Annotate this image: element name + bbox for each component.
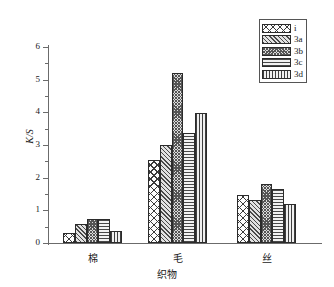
- bar-i-棉: [63, 233, 75, 243]
- y-tick-label: 3: [24, 140, 40, 149]
- bar-3d-棉: [110, 231, 122, 243]
- y-tick-label-text: 6: [26, 42, 40, 51]
- bar-3c-棉: [98, 219, 110, 243]
- bar-3d-毛: [195, 113, 207, 243]
- legend-label-3c: 3c: [294, 58, 303, 67]
- bar-3a-毛: [160, 145, 172, 243]
- bar-3b-毛: [172, 73, 184, 243]
- x-category-label-2: 毛: [148, 250, 208, 265]
- x-category-label-3: 丝: [237, 250, 297, 265]
- bar-i-毛: [148, 160, 160, 243]
- legend-item-3a[interactable]: 3a: [262, 34, 303, 45]
- bar-group: [63, 47, 122, 243]
- bar-3a-丝: [249, 200, 261, 243]
- legend-label-3d: 3d: [294, 70, 303, 79]
- x-category-label-1: 棉: [63, 250, 123, 265]
- legend-swatch-i: [262, 24, 291, 33]
- y-tick-label: 2: [24, 173, 40, 182]
- y-tick-label-text: 2: [26, 173, 40, 182]
- bar-3c-毛: [183, 133, 195, 243]
- bar-3d-丝: [284, 204, 296, 243]
- x-axis-label: 织物: [137, 266, 197, 281]
- bar-3c-丝: [272, 189, 284, 243]
- bar-group: [148, 47, 207, 243]
- legend: i3a3b3c3d: [259, 19, 307, 83]
- y-tick-label: 4: [24, 107, 40, 116]
- legend-swatch-3b: [262, 47, 291, 56]
- legend-swatch-3a: [262, 35, 291, 44]
- bar-3b-棉: [87, 219, 99, 244]
- bar-i-丝: [237, 195, 249, 243]
- bar-3a-棉: [75, 224, 87, 243]
- y-tick-major: [43, 243, 48, 244]
- legend-label-3a: 3a: [294, 35, 303, 44]
- bar-chart-figure: K/S 0123456 棉毛丝 织物 i3a3b3c3d: [0, 0, 334, 287]
- legend-swatch-3d: [262, 70, 291, 79]
- y-tick-label-text: 3: [26, 140, 40, 149]
- y-tick-label: 1: [24, 205, 40, 214]
- bar-3b-丝: [261, 184, 273, 243]
- legend-swatch-3c: [262, 58, 291, 67]
- x-axis-line: [48, 243, 322, 244]
- legend-label-i: i: [294, 24, 297, 33]
- legend-item-3b[interactable]: 3b: [262, 46, 303, 57]
- y-tick-label: 0: [24, 238, 40, 247]
- y-tick-label-text: 5: [26, 75, 40, 84]
- legend-item-3d[interactable]: 3d: [262, 69, 303, 80]
- legend-item-i[interactable]: i: [262, 23, 303, 34]
- y-tick-label-text: 4: [26, 107, 40, 116]
- y-tick-label-text: 0: [26, 238, 40, 247]
- legend-item-3c[interactable]: 3c: [262, 57, 303, 68]
- y-tick-label-text: 1: [26, 205, 40, 214]
- y-axis-label: K/S: [24, 117, 35, 157]
- y-tick-label: 6: [24, 42, 40, 51]
- y-tick-label: 5: [24, 75, 40, 84]
- legend-label-3b: 3b: [294, 47, 303, 56]
